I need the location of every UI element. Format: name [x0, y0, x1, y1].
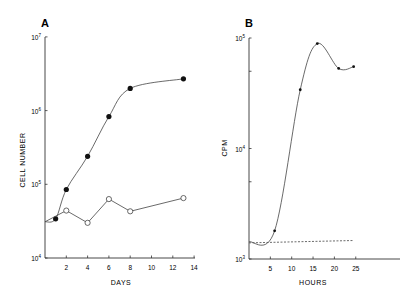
- y-tick-label: 104: [235, 145, 245, 153]
- figure: A 107106105104 2468101214 DAYS CELL NUMB…: [0, 0, 412, 301]
- data-point: [181, 195, 186, 200]
- data-point: [352, 65, 355, 68]
- panel-a-label: A: [41, 17, 49, 29]
- x-tick-label: 12: [169, 264, 177, 271]
- panel-b: B 105104103 510152025 HOURS CPM: [221, 17, 400, 286]
- y-tick-label: 104: [31, 254, 41, 262]
- data-point: [337, 67, 340, 70]
- panel-a: A 107106105104 2468101214 DAYS CELL NUMB…: [19, 17, 198, 286]
- data-point: [64, 187, 69, 192]
- x-tick-label: 25: [352, 265, 360, 272]
- y-tick-label: 107: [31, 33, 41, 41]
- y-tick-label: 105: [235, 34, 245, 42]
- data-point: [316, 42, 319, 45]
- data-point: [85, 220, 90, 225]
- data-point: [128, 209, 133, 214]
- data-point: [106, 114, 111, 119]
- data-point: [64, 208, 69, 213]
- data-point: [273, 229, 276, 232]
- panel-b-y-label: CPM: [221, 139, 228, 156]
- data-point: [85, 154, 90, 159]
- x-tick-label: 8: [128, 264, 132, 271]
- data-point: [106, 196, 111, 201]
- x-tick-label: 14: [190, 264, 198, 271]
- y-tick-label: 106: [31, 107, 41, 115]
- data-point: [299, 88, 302, 91]
- series-line: [249, 241, 354, 243]
- series-line: [45, 79, 183, 222]
- x-tick-label: 5: [269, 265, 273, 272]
- y-tick-label: 103: [235, 255, 245, 263]
- x-tick-label: 6: [107, 264, 111, 271]
- x-tick-label: 20: [331, 265, 339, 272]
- x-tick-label: 15: [309, 265, 317, 272]
- panel-b-x-label: HOURS: [299, 279, 327, 286]
- x-tick-label: 10: [148, 264, 156, 271]
- panel-b-plot: [249, 42, 355, 245]
- data-point: [128, 86, 133, 91]
- panel-a-x-label: DAYS: [111, 279, 132, 286]
- series-line: [249, 43, 354, 245]
- data-point: [181, 76, 186, 81]
- y-tick-label: 105: [31, 180, 41, 188]
- panel-a-y-label: CELL NUMBER: [19, 132, 26, 187]
- panel-b-label: B: [245, 17, 253, 29]
- x-tick-label: 2: [64, 264, 68, 271]
- panel-a-plot: [45, 76, 186, 225]
- x-tick-label: 10: [288, 265, 296, 272]
- x-tick-label: 4: [86, 264, 90, 271]
